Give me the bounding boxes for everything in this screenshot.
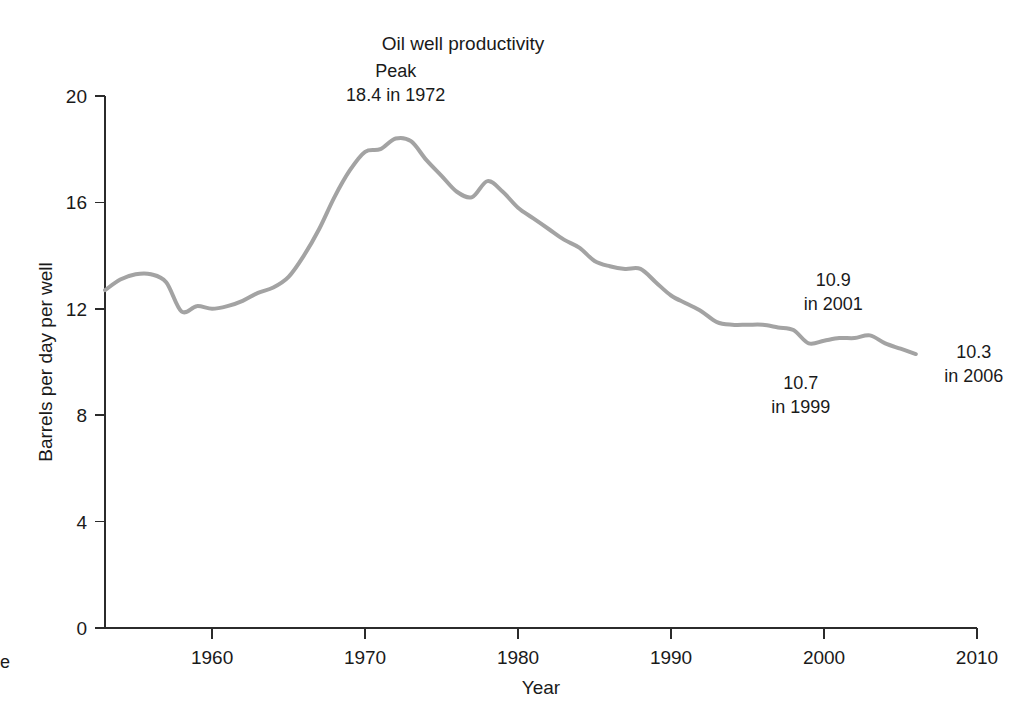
x-tick-label-2010: 2010 xyxy=(956,647,998,668)
x-tick-label-1970: 1970 xyxy=(344,647,386,668)
x-tick-label-1990: 1990 xyxy=(650,647,692,668)
annotation-peak: Peak18.4 in 1972 xyxy=(346,61,445,105)
annotation-mid-2001-line1: 10.9 xyxy=(816,270,851,290)
x-tick-label-1980: 1980 xyxy=(497,647,539,668)
annotation-end-2006: 10.3in 2006 xyxy=(944,342,1003,386)
y-tick-label-16: 16 xyxy=(66,192,87,213)
annotation-low-1999-line1: 10.7 xyxy=(783,373,818,393)
x-axis-ticks: 196019701980199020002010 xyxy=(191,628,998,668)
y-tick-label-0: 0 xyxy=(76,618,87,639)
y-axis-title: Barrels per day per well xyxy=(35,262,56,462)
annotation-end-2006-line2: in 2006 xyxy=(944,366,1003,386)
edge-text-fragment: e xyxy=(0,652,10,672)
x-tick-label-1960: 1960 xyxy=(191,647,233,668)
x-axis-title: Year xyxy=(522,677,561,698)
data-series-line xyxy=(105,138,916,354)
y-tick-label-8: 8 xyxy=(76,405,87,426)
y-tick-label-12: 12 xyxy=(66,299,87,320)
chart-container: Oil well productivity 048121620 19601970… xyxy=(0,0,1013,718)
annotation-low-1999-line2: in 1999 xyxy=(771,397,830,417)
annotation-peak-line1: Peak xyxy=(375,61,417,81)
chart-annotations: Peak18.4 in 197210.7in 199910.9in 200110… xyxy=(346,61,1003,418)
x-tick-label-2000: 2000 xyxy=(803,647,845,668)
oil-well-productivity-chart: Oil well productivity 048121620 19601970… xyxy=(0,0,1013,718)
annotation-end-2006-line1: 10.3 xyxy=(956,342,991,362)
annotation-mid-2001-line2: in 2001 xyxy=(804,294,863,314)
y-axis-ticks: 048121620 xyxy=(66,86,105,639)
chart-title: Oil well productivity xyxy=(382,33,545,54)
y-tick-label-20: 20 xyxy=(66,86,87,107)
y-tick-label-4: 4 xyxy=(76,512,87,533)
annotation-mid-2001: 10.9in 2001 xyxy=(804,270,863,314)
annotation-low-1999: 10.7in 1999 xyxy=(771,373,830,417)
annotation-peak-line2: 18.4 in 1972 xyxy=(346,85,445,105)
